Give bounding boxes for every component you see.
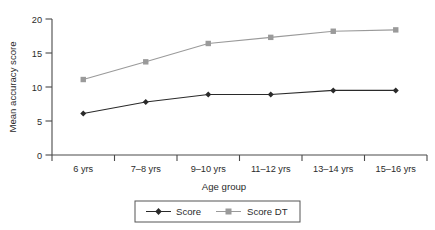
y-tick-label-10: 10 — [32, 83, 42, 93]
x-tick-label-2: 9–10 yrs — [191, 164, 227, 174]
data-point-square — [331, 29, 336, 34]
square-marker-icon — [226, 209, 232, 215]
y-tick-label-5: 5 — [37, 117, 42, 127]
data-point-square — [206, 41, 211, 46]
x-axis-title: Age group — [202, 181, 246, 192]
y-tick-label-0: 0 — [37, 151, 42, 161]
data-point-square — [268, 35, 273, 40]
data-point-square — [143, 59, 148, 64]
legend-label-score: Score — [176, 206, 201, 217]
legend-label-score-dt: Score DT — [247, 206, 288, 217]
x-tick-label-4: 13–14 yrs — [313, 164, 354, 174]
y-tick-label-20: 20 — [32, 15, 42, 25]
line-chart: 20 15 10 5 0 Mean accuracy score 6 yrs 7… — [0, 0, 435, 230]
plot-area-background — [52, 19, 427, 155]
y-axis-title: Mean accuracy score — [7, 41, 18, 132]
x-tick-label-3: 11–12 yrs — [251, 164, 291, 174]
data-point-square — [393, 27, 398, 32]
chart-figure: 20 15 10 5 0 Mean accuracy score 6 yrs 7… — [0, 0, 435, 230]
y-tick-label-15: 15 — [32, 49, 42, 59]
x-tick-label-1: 7–8 yrs — [131, 164, 162, 174]
x-tick-label-5: 15–16 yrs — [376, 164, 417, 174]
data-point-square — [81, 77, 86, 82]
x-tick-label-0: 6 yrs — [73, 164, 93, 174]
legend: Score Score DT — [135, 201, 300, 222]
x-tick-marks — [52, 155, 427, 161]
